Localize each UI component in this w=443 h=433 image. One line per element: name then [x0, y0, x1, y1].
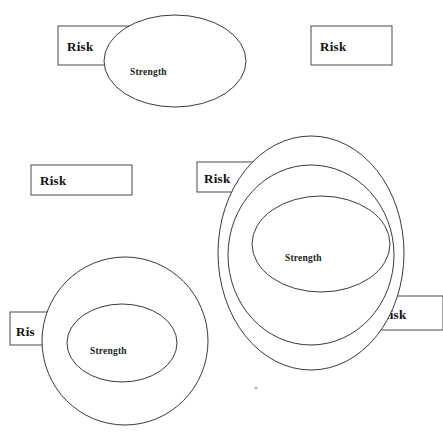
- strength-ellipse-top[interactable]: [104, 15, 246, 107]
- group-bottom-left: Ris Strength: [10, 257, 208, 425]
- diagram-canvas: Risk Risk Risk Strength Ris Strength Ris…: [0, 0, 443, 433]
- risk-label-right-upper: Risk: [204, 171, 231, 186]
- diagram-svg: Risk Risk Risk Strength Ris Strength Ris…: [0, 0, 443, 433]
- risk-label-middle-left: Risk: [40, 173, 67, 188]
- risk-label-bottom-left: Ris: [16, 324, 35, 339]
- speck-artifact: [254, 386, 257, 389]
- group-top-right: Risk: [311, 26, 392, 65]
- group-top: Risk Strength: [58, 15, 246, 107]
- inner-ellipse-bottom-left[interactable]: [67, 304, 177, 382]
- strength-label-right: Strength: [285, 253, 322, 263]
- risk-label-top-left: Risk: [67, 39, 94, 54]
- strength-label-bottom-left: Strength: [90, 346, 127, 356]
- strength-label-top: Strength: [130, 67, 167, 77]
- group-right: Risk Risk Strength: [197, 136, 443, 370]
- risk-label-top-right: Risk: [320, 39, 347, 54]
- group-middle-left: Risk: [31, 165, 132, 195]
- inner-ellipse-right[interactable]: [252, 196, 390, 292]
